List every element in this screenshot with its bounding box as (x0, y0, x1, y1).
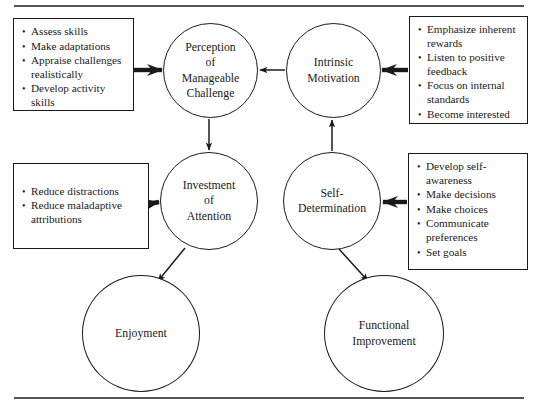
edge-selfdet-to-functional (339, 249, 368, 281)
box-develop-self-awareness: Develop self-awareness Make decisions Ma… (408, 153, 528, 270)
bullet-list: Emphasize inherent rewards Listen to pos… (418, 23, 520, 121)
list-item: Set goals (417, 246, 520, 260)
node-label: Self- Determination (292, 186, 372, 217)
list-item: Reduce distractions (22, 185, 141, 199)
list-item: Become interested (418, 108, 520, 122)
bullet-list: Assess skills Make adaptations Appraise … (22, 25, 126, 110)
node-intrinsic-motivation: Intrinsic Motivation (286, 23, 381, 118)
node-perception-of-manageable-challenge: Perception of Manageable Challenge (163, 23, 258, 118)
node-label: Enjoyment (109, 326, 173, 342)
list-item: Communicate preferences (417, 217, 520, 244)
node-label: Intrinsic Motivation (301, 55, 365, 86)
list-item: Reduce maladaptive attributions (22, 199, 141, 226)
list-item: Listen to positive feedback (418, 51, 520, 78)
list-item: Emphasize inherent rewards (418, 23, 520, 50)
list-item: Make adaptations (22, 40, 126, 54)
list-item: Develop activity skills (22, 82, 126, 109)
bullet-list: Develop self-awareness Make decisions Ma… (417, 160, 520, 259)
node-functional-improvement: Functional Improvement (324, 275, 444, 392)
bullet-list: Reduce distractions Reduce maladaptive a… (22, 185, 141, 228)
diagram-page: Assess skills Make adaptations Appraise … (0, 0, 537, 405)
edge-reduce-to-investment (149, 202, 159, 204)
list-item: Assess skills (22, 25, 126, 39)
node-label: Functional Improvement (346, 318, 422, 349)
box-assess-skills: Assess skills Make adaptations Appraise … (13, 18, 134, 111)
box-reduce-distractions: Reduce distractions Reduce maladaptive a… (13, 163, 149, 249)
node-self-determination: Self- Determination (283, 152, 381, 250)
list-item: Appraise challenges realistically (22, 54, 126, 81)
box-emphasize-rewards: Emphasize inherent rewards Listen to pos… (409, 16, 528, 124)
list-item: Make choices (417, 203, 520, 217)
node-label: Investment of Attention (177, 178, 241, 225)
node-enjoyment: Enjoyment (82, 275, 200, 392)
node-label: Perception of Manageable Challenge (176, 40, 246, 102)
list-item: Develop self-awareness (417, 160, 520, 187)
node-investment-of-attention: Investment of Attention (160, 152, 258, 250)
edge-investment-to-enjoyment (158, 248, 185, 281)
list-item: Make decisions (417, 188, 520, 202)
list-item: Focus on internal standards (418, 79, 520, 106)
